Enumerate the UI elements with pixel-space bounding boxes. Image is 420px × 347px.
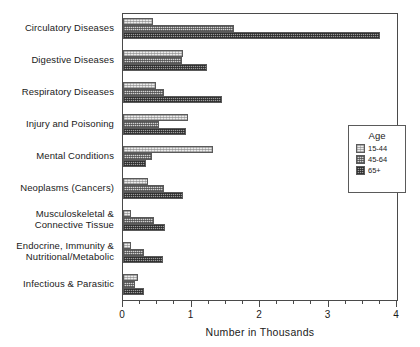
bar-group [123, 242, 397, 263]
x-tick-major [396, 301, 397, 307]
x-tick-minor [173, 301, 174, 304]
bar [123, 249, 144, 256]
bar [123, 192, 183, 199]
x-tick-minor [242, 301, 243, 304]
bar [123, 256, 163, 263]
x-tick-minor [225, 301, 226, 304]
x-tick-minor [310, 301, 311, 304]
bar [123, 25, 234, 32]
x-tick-minor [139, 301, 140, 304]
bar [123, 64, 207, 71]
y-axis-label-line: Neoplasms (Cancers) [0, 182, 114, 193]
bar-group [123, 82, 397, 103]
bar [123, 185, 164, 192]
y-axis-category-labels: Circulatory DiseasesDigestive DiseasesRe… [0, 13, 118, 301]
legend-label: 45-64 [368, 155, 387, 164]
bar [123, 50, 183, 57]
x-tick-minor [276, 301, 277, 304]
bar-group [123, 18, 397, 39]
x-axis-ticks [122, 301, 398, 309]
y-axis-label-line: Digestive Diseases [0, 54, 114, 65]
bar [123, 160, 146, 167]
bar [123, 288, 144, 295]
x-tick-label: 1 [188, 309, 194, 321]
y-axis-label: Circulatory Diseases [0, 22, 114, 33]
x-axis-title: Number in Thousands [122, 326, 398, 338]
legend-item: 45-64 [356, 155, 405, 164]
x-tick-major [259, 301, 260, 307]
y-axis-label: Endocrine, Immunity &Nutritional/Metabol… [0, 240, 114, 262]
bar [123, 210, 131, 217]
x-tick-major [328, 301, 329, 307]
bar [123, 18, 153, 25]
bar [123, 281, 135, 288]
x-tick-minor [208, 301, 209, 304]
bar-group [123, 50, 397, 71]
bar [123, 121, 159, 128]
x-tick-label: 2 [256, 309, 262, 321]
y-axis-label-line: Injury and Poisoning [0, 118, 114, 129]
bar [123, 128, 186, 135]
y-axis-label-line: Mental Conditions [0, 150, 114, 161]
bar [123, 57, 182, 64]
x-tick-minor [362, 301, 363, 304]
legend-item: 65+ [356, 166, 405, 175]
y-axis-label: Neoplasms (Cancers) [0, 182, 114, 193]
bar-chart: Circulatory DiseasesDigestive DiseasesRe… [0, 0, 420, 347]
x-tick-major [191, 301, 192, 307]
bar [123, 146, 213, 153]
x-tick-minor [156, 301, 157, 304]
legend-label: 15-44 [368, 144, 387, 153]
legend-label: 65+ [368, 166, 381, 175]
legend-swatch-icon [356, 144, 365, 153]
x-axis-tick-labels: 01234 [122, 309, 398, 323]
y-axis-label: Digestive Diseases [0, 54, 114, 65]
legend-item: 15-44 [356, 144, 405, 153]
bar [123, 153, 152, 160]
x-tick-minor [379, 301, 380, 304]
bar-group [123, 210, 397, 231]
x-tick-minor [293, 301, 294, 304]
bar [123, 89, 164, 96]
bar [123, 114, 188, 121]
legend-swatch-icon [356, 166, 365, 175]
y-axis-label-line: Connective Tissue [0, 219, 114, 230]
bar [123, 96, 222, 103]
y-axis-label-line: Respiratory Diseases [0, 86, 114, 97]
x-tick-major [122, 301, 123, 307]
legend-title: Age [349, 130, 405, 141]
y-axis-label-line: Endocrine, Immunity & [0, 240, 114, 251]
y-axis-label: Respiratory Diseases [0, 86, 114, 97]
x-tick-label: 3 [325, 309, 331, 321]
bar [123, 224, 165, 231]
x-tick-minor [345, 301, 346, 304]
y-axis-label: Musculoskeletal &Connective Tissue [0, 208, 114, 230]
y-axis-label: Injury and Poisoning [0, 118, 114, 129]
x-tick-label: 4 [393, 309, 399, 321]
y-axis-label-line: Infectious & Parasitic [0, 278, 114, 289]
bar [123, 217, 154, 224]
bar [123, 242, 131, 249]
y-axis-label: Infectious & Parasitic [0, 278, 114, 289]
legend-items: 15-4445-6465+ [349, 144, 405, 175]
y-axis-label-line: Nutritional/Metabolic [0, 251, 114, 262]
legend: Age 15-4445-6465+ [348, 125, 406, 193]
bar-group [123, 274, 397, 295]
bar [123, 32, 380, 39]
bar [123, 274, 138, 281]
legend-swatch-icon [356, 155, 365, 164]
y-axis-label-line: Circulatory Diseases [0, 22, 114, 33]
y-axis-label: Mental Conditions [0, 150, 114, 161]
x-tick-label: 0 [119, 309, 125, 321]
bar [123, 82, 156, 89]
bar [123, 178, 148, 185]
y-axis-label-line: Musculoskeletal & [0, 208, 114, 219]
